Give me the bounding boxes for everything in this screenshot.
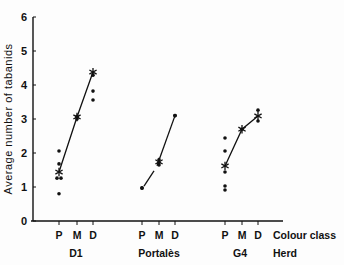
data-point <box>223 170 227 174</box>
y-tick-label: 5 <box>21 45 27 57</box>
data-point <box>57 162 61 166</box>
data-point <box>91 98 95 102</box>
data-point <box>223 188 227 192</box>
mean-line <box>144 171 154 186</box>
mean-star-icon <box>155 158 162 166</box>
data-point <box>57 149 61 153</box>
colour-class-label: P <box>138 229 145 241</box>
data-point <box>55 176 59 180</box>
mean-star-icon <box>89 68 96 76</box>
y-tick-label: 6 <box>21 11 27 23</box>
y-tick-label: 4 <box>21 79 28 91</box>
scatter-plot: 0123456Average number of tabanidsPMDD1PM… <box>0 0 344 265</box>
chart-figure: 0123456Average number of tabanidsPMDD1PM… <box>0 0 344 265</box>
herd-label: Portalès <box>138 247 180 259</box>
mean-star-icon <box>140 186 144 190</box>
y-tick-label: 0 <box>21 215 27 227</box>
data-point <box>59 176 63 180</box>
colour-class-axis-title: Colour class <box>273 229 336 241</box>
mean-star-icon <box>73 113 80 121</box>
data-point <box>223 149 227 153</box>
mean-star-icon <box>221 162 228 170</box>
herd-group-g4: PMDG4 <box>221 108 262 259</box>
y-axis-label: Average number of tabanids <box>2 44 14 195</box>
mean-line <box>225 116 258 166</box>
herd-axis-title: Herd <box>273 247 297 259</box>
data-point <box>223 184 227 188</box>
mean-star-icon <box>55 168 62 176</box>
colour-class-label: P <box>55 229 62 241</box>
colour-class-label: M <box>238 229 247 241</box>
data-point <box>256 108 260 112</box>
data-point <box>91 89 95 93</box>
herd-label: D1 <box>69 247 83 259</box>
colour-class-label: P <box>221 229 228 241</box>
colour-class-label: D <box>254 229 262 241</box>
data-point <box>223 136 227 140</box>
colour-class-label: M <box>155 229 164 241</box>
mean-star-icon <box>173 114 177 118</box>
data-point <box>57 192 61 196</box>
y-tick-label: 2 <box>21 147 27 159</box>
mean-line <box>59 72 93 172</box>
herd-group-d1: PMDD1 <box>55 68 97 259</box>
herd-label: G4 <box>233 247 247 259</box>
colour-class-label: M <box>73 229 82 241</box>
colour-class-label: D <box>89 229 97 241</box>
colour-class-label: D <box>171 229 179 241</box>
herd-group-portals: PMDPortalès <box>138 114 180 259</box>
y-tick-label: 1 <box>21 181 27 193</box>
y-tick-label: 3 <box>21 113 27 125</box>
